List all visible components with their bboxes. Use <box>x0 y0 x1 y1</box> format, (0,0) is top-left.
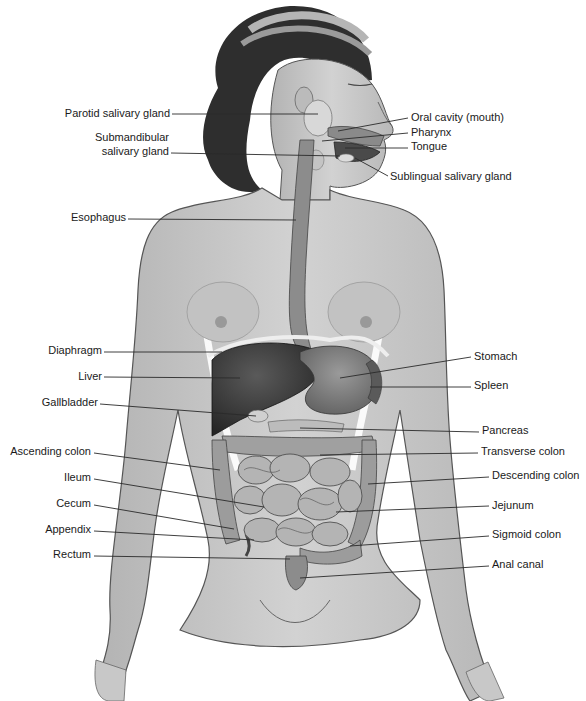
label-ileum: Ileum <box>64 471 91 484</box>
label-appendix: Appendix <box>45 523 91 536</box>
label-esophagus: Esophagus <box>71 211 126 224</box>
label-ascending-colon: Ascending colon <box>10 445 91 458</box>
digestive-system-diagram: Parotid salivary glandSubmandibularsaliv… <box>0 0 586 701</box>
label-sublingual: Sublingual salivary gland <box>390 170 512 183</box>
label-sigmoid-colon: Sigmoid colon <box>492 528 561 541</box>
label-pancreas: Pancreas <box>482 424 528 437</box>
label-submandibular2: salivary gland <box>102 145 169 158</box>
small-intestine <box>234 454 362 546</box>
label-gallbladder: Gallbladder <box>42 396 98 409</box>
label-jejunum: Jejunum <box>492 499 534 512</box>
label-spleen: Spleen <box>474 379 508 392</box>
label-submandibular1: Submandibular <box>95 131 169 144</box>
label-stomach: Stomach <box>474 350 517 363</box>
label-pharynx: Pharynx <box>411 126 451 139</box>
label-anal-canal: Anal canal <box>492 558 543 571</box>
label-diaphragm: Diaphragm <box>48 344 102 357</box>
label-transverse-colon: Transverse colon <box>481 445 565 458</box>
label-tongue: Tongue <box>411 140 447 153</box>
label-rectum: Rectum <box>53 548 91 561</box>
label-oral-cavity: Oral cavity (mouth) <box>411 111 504 124</box>
label-descending-colon: Descending colon <box>492 469 579 482</box>
label-cecum: Cecum <box>56 497 91 510</box>
label-parotid: Parotid salivary gland <box>65 107 170 120</box>
label-liver: Liver <box>78 370 102 383</box>
